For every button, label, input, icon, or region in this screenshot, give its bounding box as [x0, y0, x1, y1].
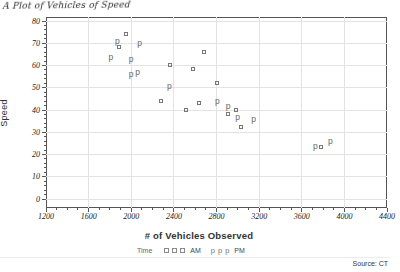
data-point-pm: p	[215, 97, 220, 105]
data-point-pm: p	[135, 68, 140, 76]
x-minor-tick	[184, 208, 185, 210]
y-tick-label: 80	[20, 17, 40, 26]
y-minor-tick	[44, 38, 46, 39]
y-minor-tick	[44, 172, 46, 173]
x-minor-tick	[77, 208, 78, 210]
grid-line-horizontal	[46, 199, 387, 200]
data-point-pm: p	[129, 70, 134, 78]
source-note: Source: CT	[353, 260, 388, 267]
y-axis-title: Speed	[0, 83, 9, 143]
y-tick-label: 0	[20, 195, 40, 204]
y-minor-tick	[44, 190, 46, 191]
y-tick-label: 30	[20, 128, 40, 137]
y-minor-tick	[44, 92, 46, 93]
grid-line-vertical	[301, 17, 302, 208]
y-minor-tick	[44, 167, 46, 168]
data-point-pm: p	[226, 102, 231, 110]
x-minor-tick	[291, 208, 292, 210]
x-minor-tick	[109, 208, 110, 210]
y-minor-tick	[44, 25, 46, 26]
y-tick-label: 70	[20, 39, 40, 48]
y-minor-tick	[44, 181, 46, 182]
grid-line-vertical	[216, 17, 217, 208]
y-major-tick	[42, 21, 46, 22]
x-minor-tick	[67, 208, 68, 210]
y-minor-tick	[44, 114, 46, 115]
am-square-marker-icon	[172, 248, 177, 253]
data-point-pm: p	[313, 142, 318, 150]
y-minor-tick	[44, 74, 46, 75]
y-major-tick	[42, 199, 46, 200]
grid-line-horizontal	[46, 43, 387, 44]
data-point-pm: p	[235, 113, 240, 121]
x-minor-tick	[99, 208, 100, 210]
y-major-tick	[42, 132, 46, 133]
x-minor-tick	[280, 208, 281, 210]
y-minor-tick	[44, 101, 46, 102]
y-minor-tick	[44, 150, 46, 151]
pm-p-marker-icon: p	[225, 247, 229, 254]
y-minor-tick	[44, 136, 46, 137]
pm-p-marker-icon: p	[211, 247, 215, 254]
data-point-am	[202, 50, 206, 54]
y-minor-tick	[44, 61, 46, 62]
x-tick-label: 2000	[114, 212, 148, 221]
data-point-am	[319, 145, 323, 149]
y-minor-tick	[44, 83, 46, 84]
data-point-pm: p	[137, 39, 142, 47]
y-minor-tick	[44, 141, 46, 142]
legend-entry-pm: p p p PM	[211, 247, 245, 254]
y-minor-tick	[44, 158, 46, 159]
data-point-pm: p	[109, 53, 114, 61]
data-point-pm: p	[251, 115, 256, 123]
y-minor-tick	[44, 29, 46, 30]
grid-line-horizontal	[46, 87, 387, 88]
grid-line-vertical	[344, 17, 345, 208]
x-minor-tick	[163, 208, 164, 210]
y-major-tick	[42, 65, 46, 66]
data-point-am	[124, 32, 128, 36]
legend-title: Time	[137, 247, 152, 254]
y-tick-label: 40	[20, 106, 40, 115]
x-tick-label: 3600	[285, 212, 319, 221]
y-minor-tick	[44, 185, 46, 186]
data-point-pm: p	[115, 37, 120, 45]
y-minor-tick	[44, 56, 46, 57]
x-minor-tick	[120, 208, 121, 210]
x-minor-tick	[269, 208, 270, 210]
y-minor-tick	[44, 96, 46, 97]
y-minor-tick	[44, 105, 46, 106]
y-minor-tick	[44, 194, 46, 195]
y-minor-tick	[44, 145, 46, 146]
y-tick-label: 50	[20, 83, 40, 92]
y-tick-label: 60	[20, 61, 40, 70]
data-point-am	[239, 125, 243, 129]
divider	[0, 257, 390, 258]
grid-line-horizontal	[46, 154, 387, 155]
y-minor-tick	[44, 163, 46, 164]
x-minor-tick	[355, 208, 356, 210]
data-point-am	[215, 81, 219, 85]
y-major-tick	[42, 176, 46, 177]
y-minor-tick	[44, 78, 46, 79]
grid-line-vertical	[88, 17, 89, 208]
grid-line-horizontal	[46, 110, 387, 111]
x-minor-tick	[323, 208, 324, 210]
y-major-tick	[42, 154, 46, 155]
data-point-pm: p	[328, 137, 333, 145]
y-major-tick	[42, 87, 46, 88]
x-minor-tick	[248, 208, 249, 210]
grid-line-horizontal	[46, 176, 387, 177]
data-point-am	[197, 101, 201, 105]
grid-line-vertical	[173, 17, 174, 208]
x-minor-tick	[312, 208, 313, 210]
x-minor-tick	[365, 208, 366, 210]
legend: Time AM p p p PM	[137, 245, 245, 255]
y-minor-tick	[44, 52, 46, 53]
grid-line-horizontal	[46, 65, 387, 66]
y-minor-tick	[44, 47, 46, 48]
pm-p-marker-icon: p	[218, 247, 222, 254]
am-square-marker-icon	[164, 248, 169, 253]
data-point-pm: p	[129, 55, 134, 63]
